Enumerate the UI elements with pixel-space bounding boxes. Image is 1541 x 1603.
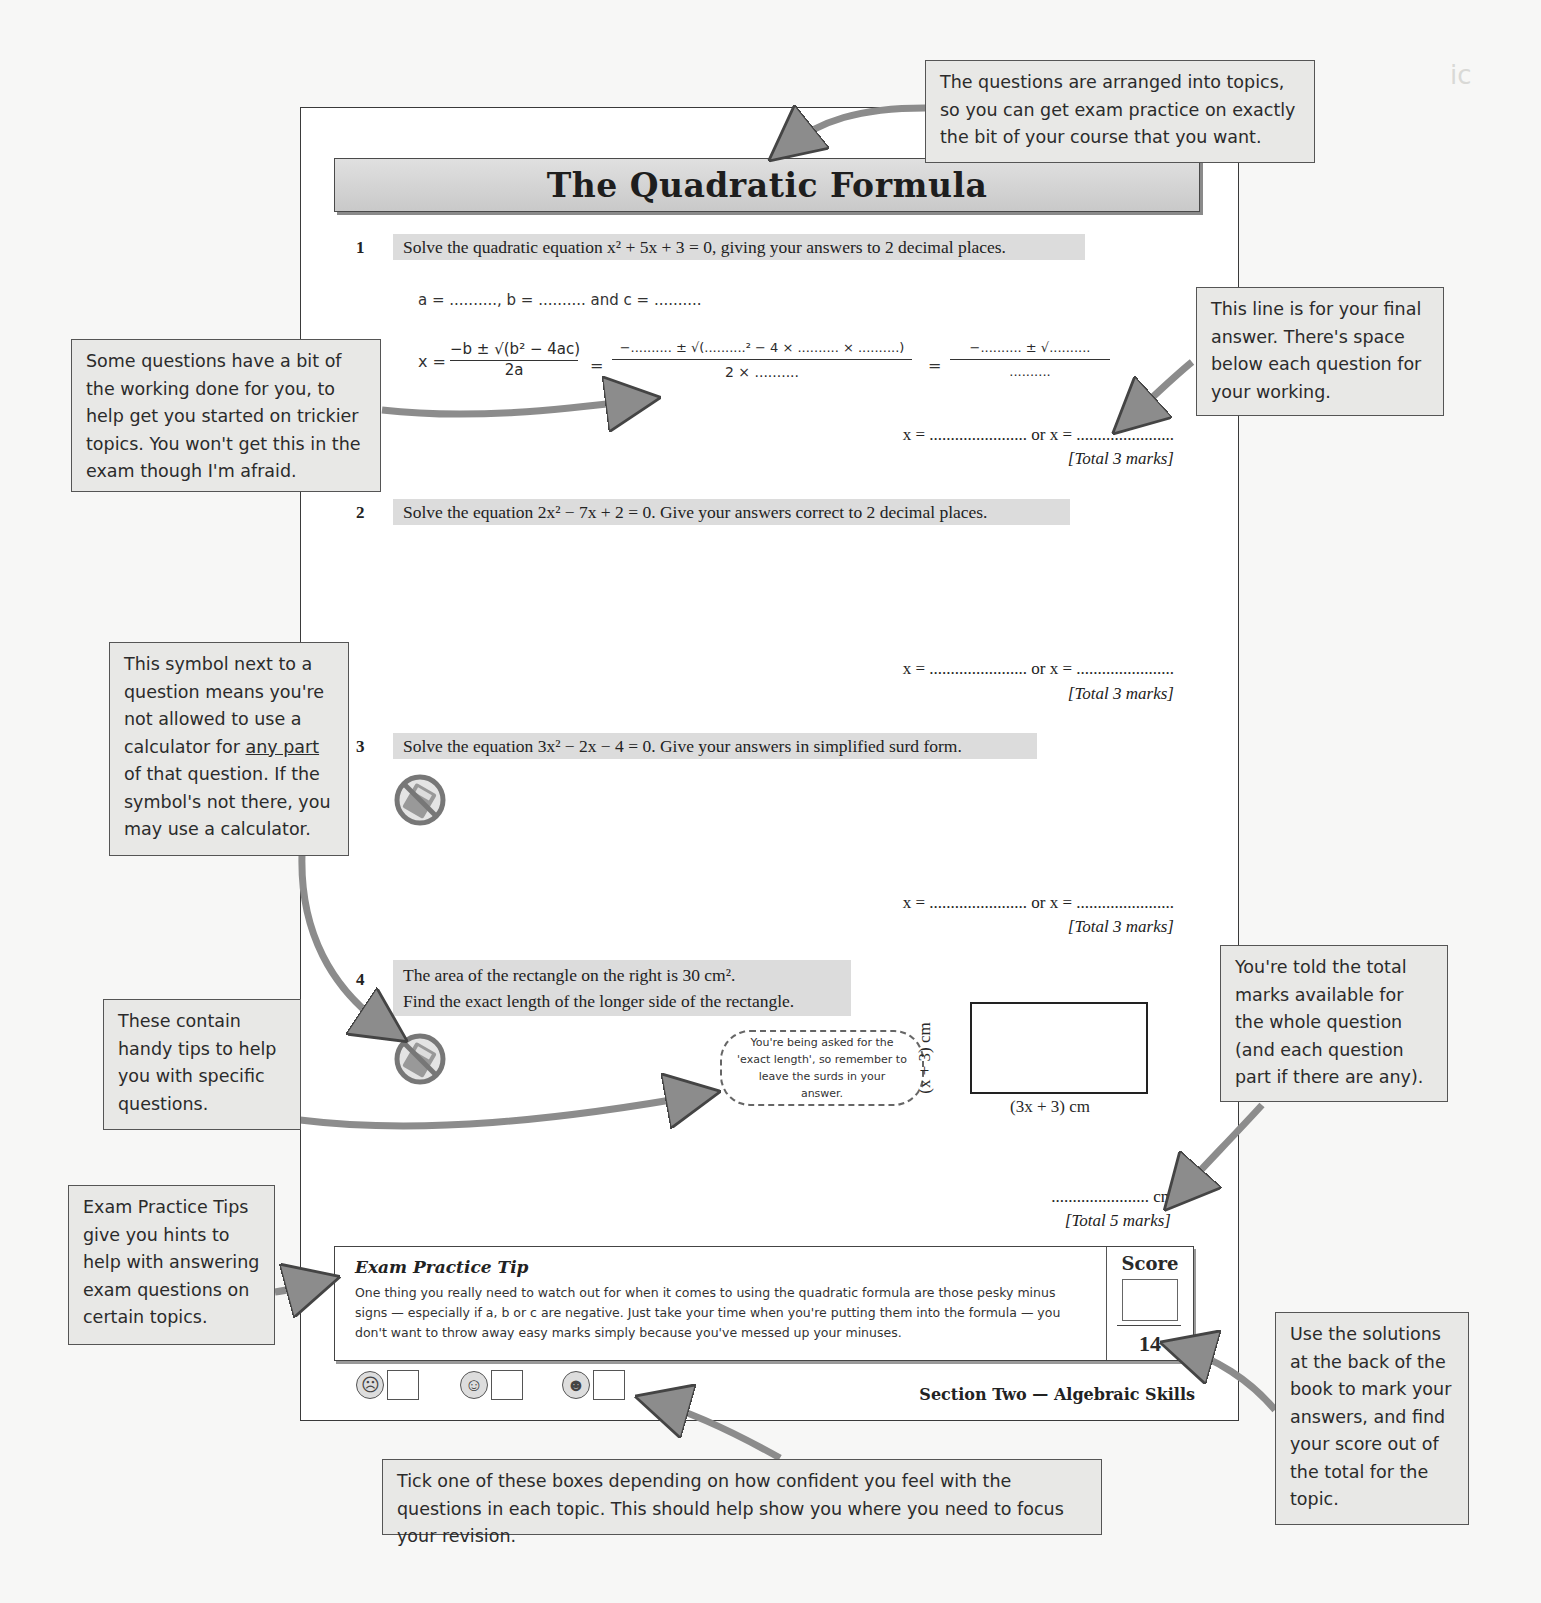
question-number-3: 3	[356, 737, 365, 757]
exam-tip-body: One thing you really need to watch out f…	[355, 1283, 1085, 1343]
page-title: The Quadratic Formula	[547, 166, 988, 205]
question-2-text: Solve the equation 2x² − 7x + 2 = 0. Giv…	[393, 499, 1070, 525]
happy-face-icon: ☻	[562, 1371, 590, 1399]
callout-exam-tips: Exam Practice Tips give you hints to hel…	[68, 1185, 275, 1345]
question-4-line-2: Find the exact length of the longer side…	[403, 988, 841, 1014]
rectangle-side-label: (x + 3) cm	[915, 1008, 935, 1108]
score-divider	[1117, 1325, 1181, 1326]
formula-fraction: −b ± √(b² − 4ac) 2a	[450, 340, 578, 379]
simplified-fraction[interactable]: −.......... ± √.......... ..........	[950, 340, 1110, 379]
confidence-checkbox-sad[interactable]	[387, 1370, 419, 1400]
formula-denominator: 2a	[450, 361, 578, 379]
question-number-1: 1	[356, 238, 365, 258]
hint-text: You're being asked for the 'exact length…	[722, 1034, 922, 1102]
confidence-happy[interactable]: ☻	[562, 1370, 625, 1400]
score-input-box[interactable]	[1122, 1279, 1178, 1321]
simplified-numerator[interactable]: −.......... ± √..........	[950, 340, 1110, 360]
question-number-4: 4	[356, 970, 365, 990]
no-calculator-icon	[393, 1032, 447, 1086]
score-label: Score	[1107, 1253, 1193, 1274]
question-number-2: 2	[356, 503, 365, 523]
question-1-marks: [Total 3 marks]	[1068, 449, 1174, 469]
rectangle-bottom-label: (3x + 3) cm	[1010, 1097, 1090, 1117]
substitution-numerator[interactable]: −.......... ± √(..........² − 4 × ......…	[612, 340, 912, 360]
substitution-denominator[interactable]: 2 × ..........	[612, 360, 912, 380]
question-4-answer-line[interactable]: ....................... cm	[1051, 1187, 1174, 1207]
neutral-face-icon: ☺	[460, 1371, 488, 1399]
question-3-answer-line[interactable]: x = ....................... or x = .....…	[903, 893, 1174, 913]
confidence-sad[interactable]: ☹	[356, 1370, 419, 1400]
question-3-text: Solve the equation 3x² − 2x − 4 = 0. Giv…	[393, 733, 1037, 759]
rectangle-diagram	[970, 1002, 1148, 1094]
question-2-answer-line[interactable]: x = ....................... or x = .....…	[903, 659, 1174, 679]
hint-bubble: You're being asked for the 'exact length…	[720, 1030, 924, 1106]
formula-numerator: −b ± √(b² − 4ac)	[450, 340, 578, 361]
callout-solutions: Use the solutions at the back of the boo…	[1275, 1312, 1469, 1525]
exam-practice-tip-box: Exam Practice Tip One thing you really n…	[334, 1246, 1194, 1361]
callout-topics: The questions are arranged into topics, …	[925, 60, 1315, 163]
callout-tips: These contain handy tips to help you wit…	[103, 999, 301, 1130]
callout-calculator: This symbol next to a question means you…	[109, 642, 349, 856]
question-1-answer-line[interactable]: x = ....................... or x = .....…	[903, 425, 1174, 445]
callout-calculator-emphasis: any part	[245, 737, 319, 757]
confidence-checkbox-neutral[interactable]	[491, 1370, 523, 1400]
question-4-line-1: The area of the rectangle on the right i…	[403, 962, 841, 988]
question-3-marks: [Total 3 marks]	[1068, 917, 1174, 937]
topic-title-bar: The Quadratic Formula	[334, 158, 1200, 212]
confidence-checkbox-happy[interactable]	[593, 1370, 625, 1400]
question-4-marks: [Total 5 marks]	[1065, 1211, 1171, 1231]
callout-total-marks: You're told the total marks available fo…	[1220, 945, 1448, 1102]
question-4-text: The area of the rectangle on the right i…	[393, 960, 851, 1016]
substitution-fraction[interactable]: −.......... ± √(..........² − 4 × ......…	[612, 340, 912, 380]
coefficients-line[interactable]: a = .........., b = .......... and c = .…	[418, 291, 702, 309]
section-footer: Section Two — Algebraic Skills	[900, 1385, 1195, 1404]
callout-final-answer: This line is for your final answer. Ther…	[1196, 287, 1444, 416]
equals-sign: =	[590, 356, 603, 375]
simplified-denominator[interactable]: ..........	[950, 360, 1110, 379]
callout-tick-boxes: Tick one of these boxes depending on how…	[382, 1459, 1102, 1535]
score-panel: Score 14	[1106, 1247, 1193, 1360]
sad-face-icon: ☹	[356, 1371, 384, 1399]
callout-working: Some questions have a bit of the working…	[71, 339, 381, 492]
confidence-neutral[interactable]: ☺	[460, 1370, 523, 1400]
equals-sign: =	[928, 356, 941, 375]
background-bleed: ic	[1450, 60, 1472, 90]
question-1-text: Solve the quadratic equation x² + 5x + 3…	[393, 234, 1085, 260]
formula-lhs: x =	[418, 352, 446, 371]
callout-calculator-text-end: of that question. If the symbol's not th…	[124, 764, 331, 839]
question-2-marks: [Total 3 marks]	[1068, 684, 1174, 704]
score-total: 14	[1107, 1331, 1193, 1357]
exam-tip-title: Exam Practice Tip	[355, 1257, 529, 1277]
no-calculator-icon	[393, 773, 447, 827]
